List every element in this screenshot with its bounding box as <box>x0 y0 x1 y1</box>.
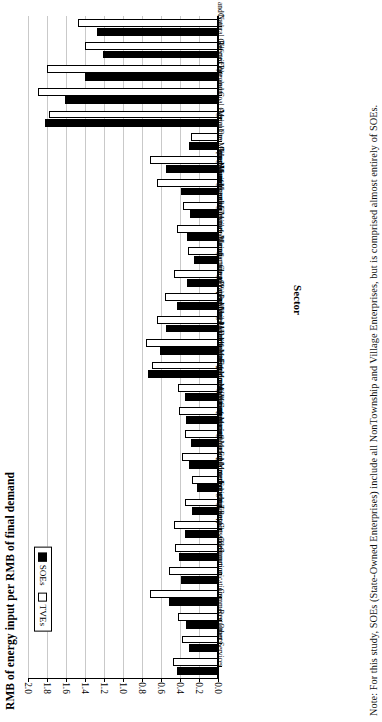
bar-group <box>28 153 218 176</box>
bar-group <box>28 495 218 518</box>
chart-legend: TVEs SOEs <box>34 547 52 632</box>
bar-group <box>28 267 218 290</box>
bar-group <box>28 85 218 108</box>
bar-tves <box>146 339 218 347</box>
bar-soes <box>166 325 218 333</box>
bar-tves <box>157 179 218 187</box>
bar-group <box>28 358 218 381</box>
value-axis-tick-label: 0.4 <box>175 682 185 694</box>
value-axis-tick-label: 2.0 <box>23 682 33 694</box>
bar-tves <box>38 88 218 96</box>
bar-soes <box>197 484 218 492</box>
bar-tves <box>49 111 218 119</box>
bar-soes <box>181 188 218 196</box>
bar-tves <box>185 430 218 438</box>
bar-group <box>28 610 218 633</box>
bar-group <box>28 564 218 587</box>
bar-group <box>28 632 218 655</box>
bar-tves <box>182 453 218 461</box>
legend-swatch-soes-icon <box>39 553 48 562</box>
bar-soes <box>177 667 218 675</box>
bar-soes <box>181 576 218 584</box>
bar-group <box>28 62 218 85</box>
bar-soes <box>97 28 218 36</box>
bar-group <box>28 199 218 222</box>
bar-soes <box>185 530 218 538</box>
bar-soes <box>148 370 218 378</box>
value-axis-tick-label: 0.2 <box>194 682 204 694</box>
bar-group <box>28 655 218 678</box>
bar-soes <box>189 644 218 652</box>
bar-tves <box>165 293 218 301</box>
bar-tves <box>150 156 218 164</box>
bar-group <box>28 450 218 473</box>
bar-group <box>28 39 218 62</box>
legend-label-tves: TVEs <box>38 605 48 626</box>
bar-tves <box>85 42 218 50</box>
bar-soes <box>191 439 218 447</box>
bar-tves <box>47 65 218 73</box>
plot-area: 0.00.20.40.60.81.01.21.41.61.82.0 CoalCr… <box>28 16 218 679</box>
bar-soes <box>186 621 218 629</box>
legend-item-tves: TVEs <box>38 593 48 626</box>
bar-tves <box>178 384 218 392</box>
bar-group <box>28 244 218 267</box>
bar-tves <box>152 362 218 370</box>
bar-group <box>28 130 218 153</box>
bar-group <box>28 16 218 39</box>
bar-soes <box>186 416 218 424</box>
bar-group <box>28 221 218 244</box>
figure-note: Note: For this study, SOEs (State-Owned … <box>368 4 379 716</box>
category-axis-title: Sector <box>292 285 304 315</box>
category-axis-label: Other Services <box>216 623 225 667</box>
bar-soes <box>177 302 218 310</box>
bar-soes <box>85 73 218 81</box>
value-axis-title: RMB of energy input per RMB of final dem… <box>4 410 17 710</box>
value-axis-tick-label: 1.8 <box>42 682 52 694</box>
category-axis-label: Freight Transport and Communications <box>216 482 225 598</box>
bar-tves <box>175 544 218 552</box>
bar-soes <box>179 553 218 561</box>
bar-tves <box>157 316 218 324</box>
bar-tves <box>169 567 218 575</box>
bar-tves <box>182 636 218 644</box>
bar-soes <box>65 96 218 104</box>
value-axis-tick-label: 1.0 <box>118 682 128 694</box>
bar-soes <box>189 142 218 150</box>
bar-groups: CoalCrude Petroleum and Natural GasElect… <box>28 16 218 678</box>
bar-tves <box>78 19 218 27</box>
bar-group <box>28 313 218 336</box>
bar-group <box>28 107 218 130</box>
bar-tves <box>192 476 218 484</box>
value-axis-tick-label: 1.4 <box>80 682 90 694</box>
bar-soes <box>194 256 218 264</box>
bar-group <box>28 336 218 359</box>
bar-group <box>28 381 218 404</box>
bar-soes <box>166 165 218 173</box>
bar-tves <box>150 590 218 598</box>
value-axis-tick-label: 1.2 <box>99 682 109 694</box>
bar-soes <box>190 210 218 218</box>
bar-soes <box>103 51 218 59</box>
value-axis-tick-label: 1.6 <box>61 682 71 694</box>
bar-group <box>28 290 218 313</box>
bar-soes <box>160 347 218 355</box>
bar-soes <box>187 233 218 241</box>
value-axis-tick-label: 0.8 <box>137 682 147 694</box>
bar-tves <box>178 613 218 621</box>
bar-tves <box>191 133 218 141</box>
bar-group <box>28 541 218 564</box>
value-axis-tick-label: 0.0 <box>213 682 223 694</box>
bar-group <box>28 176 218 199</box>
value-axis-tick-label: 0.6 <box>156 682 166 694</box>
bar-tves <box>183 202 218 210</box>
bar-soes <box>192 507 218 515</box>
bar-soes <box>187 279 218 287</box>
bar-tves <box>185 499 218 507</box>
bar-soes <box>169 598 218 606</box>
bar-soes <box>185 393 218 401</box>
legend-swatch-tves-icon <box>39 593 48 602</box>
legend-label-soes: SOEs <box>38 565 48 586</box>
bar-group <box>28 404 218 427</box>
bar-group <box>28 473 218 496</box>
